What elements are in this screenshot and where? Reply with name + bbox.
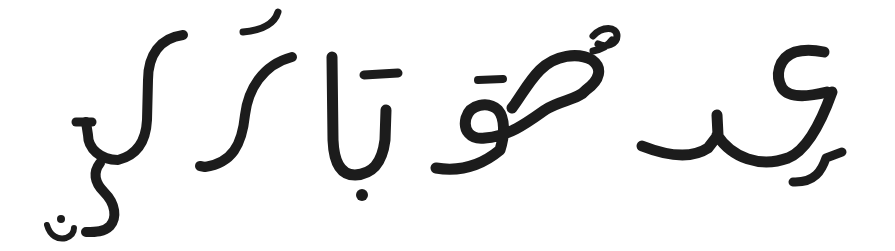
glyph-group-4 xyxy=(436,29,617,170)
glyph-group-2 xyxy=(200,12,292,167)
calligraphy-canvas xyxy=(0,0,895,251)
glyph-group-5 xyxy=(642,50,842,182)
glyph-group-3 xyxy=(332,57,398,201)
glyph-group-1 xyxy=(47,35,183,238)
